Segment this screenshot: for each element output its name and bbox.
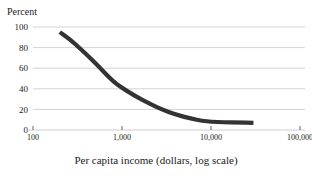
y-tick-label: 20 [19,105,29,115]
gridlines-group [33,27,305,109]
chart-figure: nd primary school completion Percent 020… [0,0,312,178]
x-tick-label: 10,000 [200,133,222,142]
x-tick-label: 1,000 [113,133,131,142]
y-tick-label: 100 [15,22,29,32]
y-tick-label: 80 [19,43,29,53]
plot-area: 020406080100 1001,00010,000100,000 [0,0,312,178]
x-tick-label: 100 [27,133,39,142]
x-axis-group [27,126,305,130]
y-tick-label: 60 [19,63,29,73]
x-tick-label: 100,000 [287,133,312,142]
x-axis-caption: Per capita income (dollars, log scale) [0,154,312,166]
x-tick-labels-group: 1001,00010,000100,000 [27,133,312,142]
y-tick-label: 40 [19,84,29,94]
y-tick-labels-group: 020406080100 [15,22,29,135]
